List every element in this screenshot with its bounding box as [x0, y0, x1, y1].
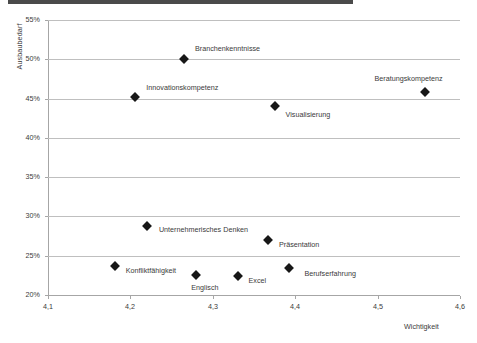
y-tick-label: 25% — [0, 251, 40, 260]
data-point-label: Unternehmerisches Denken — [159, 225, 248, 234]
data-point-label: Visualisierung — [286, 110, 331, 119]
x-tick-label: 4,4 — [275, 302, 315, 311]
y-tick-label: 45% — [0, 94, 40, 103]
x-axis-title: Wichtigkeit — [404, 322, 439, 331]
x-tick-label: 4,5 — [358, 302, 398, 311]
data-point-label: Excel — [249, 276, 267, 285]
x-tick-mark — [378, 296, 379, 299]
y-tick-label: 35% — [0, 172, 40, 181]
y-tick-label: 55% — [0, 15, 40, 24]
data-point-label: Branchenkenntnisse — [195, 44, 260, 53]
data-point-label: Innovationskompetenz — [146, 83, 218, 92]
data-point-label: Berufserfahrung — [304, 269, 356, 278]
data-point-label: Konfliktfähigkeit — [126, 266, 176, 275]
data-point-label: Beratungskompetenz — [375, 74, 443, 83]
y-tick-label: 30% — [0, 211, 40, 220]
x-tick-mark — [295, 296, 296, 299]
scatter-chart: Ausbaubedarf Wichtigkeit 20%25%30%35%40%… — [0, 0, 477, 343]
x-tick-mark — [460, 296, 461, 299]
gridline-horizontal — [48, 295, 460, 296]
data-point-label: Englisch — [191, 283, 218, 292]
x-tick-mark — [213, 296, 214, 299]
y-tick-label: 40% — [0, 133, 40, 142]
x-tick-label: 4,1 — [28, 302, 68, 311]
plot-area — [48, 20, 460, 295]
data-point-label: Präsentation — [279, 240, 319, 249]
x-tick-label: 4,3 — [193, 302, 233, 311]
x-tick-label: 4,6 — [440, 302, 477, 311]
y-tick-label: 50% — [0, 54, 40, 63]
x-tick-mark — [130, 296, 131, 299]
x-tick-label: 4,2 — [110, 302, 150, 311]
x-tick-mark — [48, 296, 49, 299]
y-tick-label: 20% — [0, 290, 40, 299]
